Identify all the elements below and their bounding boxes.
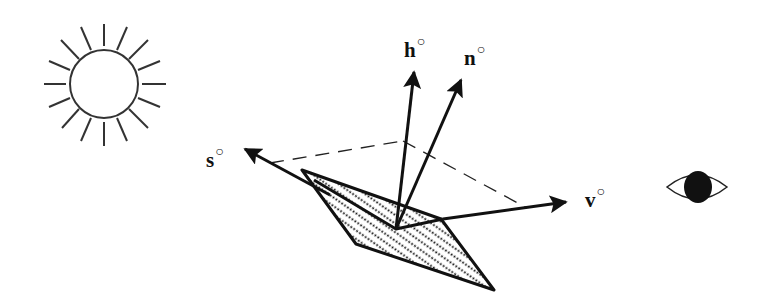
- eye-icon: [667, 171, 727, 203]
- sun-icon: [44, 24, 166, 146]
- diagram-canvas: [0, 0, 766, 308]
- vector-v: [443, 202, 566, 219]
- label-s: s○: [206, 148, 224, 171]
- reflection-diagram: h○ n○ s○ v○: [0, 0, 766, 308]
- surface-patch: [302, 170, 494, 290]
- label-n: n○: [464, 46, 485, 69]
- label-v: v○: [585, 188, 605, 211]
- label-h: h○: [404, 38, 425, 61]
